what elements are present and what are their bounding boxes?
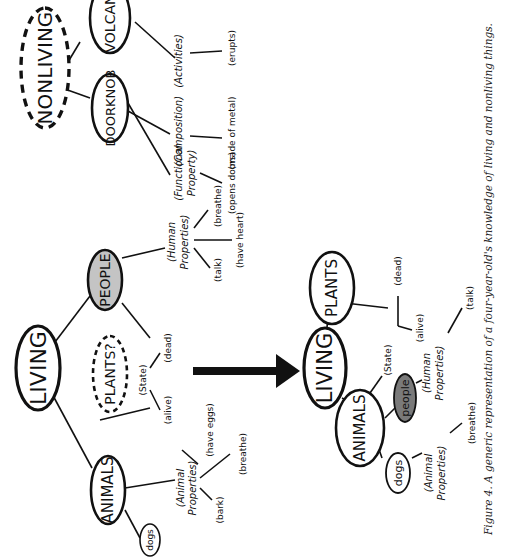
state-after: (State) — [383, 345, 393, 376]
activities-category: (Activities) — [173, 34, 184, 88]
node-dogs-after-label: dogs — [392, 460, 405, 487]
figure-caption: Figure 4. A generic representation of a … — [482, 23, 494, 536]
animal-properties-before-line2: Properties) — [187, 461, 198, 516]
node-nonliving-label: NONLIVING — [33, 12, 57, 125]
human-properties-after-line1: (Human — [421, 353, 432, 393]
prop-talk-before: (talk) — [213, 258, 223, 282]
human-properties-before-line2: Properties) — [179, 215, 190, 270]
animal-properties-before-line1: (Animal — [175, 469, 186, 508]
state-alive-after: (alive) — [415, 314, 425, 342]
prop-bark: (bark) — [215, 496, 225, 523]
node-animals-before-label: ANIMALS — [99, 457, 117, 524]
state-dead-after: (dead) — [393, 256, 403, 286]
node-living-after-label: LIVING — [313, 333, 337, 403]
node-dogs-before-label: dogs — [145, 529, 155, 551]
node-people-before-label: PEOPLE — [97, 253, 113, 306]
human-properties-after-line2: Properties) — [434, 346, 445, 401]
prop-breathe-animal: (breathe) — [238, 433, 248, 475]
node-living-before-label: LIVING — [26, 331, 51, 405]
composition-category: (Composition) — [173, 96, 184, 166]
node-plants-before-label: PLANTS? — [102, 343, 118, 404]
node-animals-after-label: ANIMALS — [351, 395, 369, 462]
nonliving-network: NONLIVING DOORKNOB VOLCANO (Functional P… — [21, 0, 237, 214]
prop-have-heart: (have heart) — [235, 212, 245, 268]
node-volcano-label: VOLCANO — [102, 0, 118, 53]
prop-breathe-human: (breathe) — [213, 185, 223, 227]
functional-property-line2: Property) — [186, 150, 197, 197]
animal-properties-after-line1: (Animal — [423, 454, 434, 493]
transition-arrow-icon — [193, 354, 300, 388]
prop-talk-after: (talk) — [465, 286, 475, 310]
rotated-figure: LIVING ANIMALS PLANTS? PEOPLE dogs (Anim… — [0, 0, 507, 558]
node-plants-after-label: PLANTS — [323, 259, 341, 317]
prop-have-eggs: (have eggs) — [205, 403, 215, 457]
animal-properties-after-line2: Properties) — [436, 446, 447, 501]
node-doorknob-label: DOORKNOB — [103, 70, 118, 147]
after-living-network: LIVING ANIMALS PLANTS dogs people (State… — [304, 252, 477, 500]
prop-made-of-metal: (made of metal) — [227, 97, 237, 170]
state-dead-before: (dead) — [163, 333, 173, 363]
human-properties-before-line1: (Human — [166, 222, 177, 262]
state-alive-before: (alive) — [163, 396, 173, 424]
state-before: (State) — [138, 365, 148, 396]
prop-breathe-after: (breathe) — [467, 402, 477, 444]
prop-erupts: (erupts) — [227, 30, 237, 66]
node-people-after-label: people — [399, 379, 412, 417]
